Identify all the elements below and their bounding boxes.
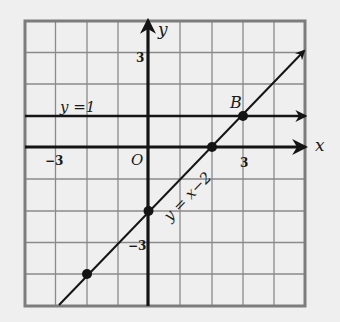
point-B	[238, 111, 248, 121]
horizontal-line-label: y =1	[59, 98, 95, 116]
x-tick-label-neg3: −3	[45, 154, 63, 168]
y-tick-label-neg3: −3	[128, 239, 146, 253]
point-B-label: B	[229, 93, 242, 112]
point-y-intercept	[144, 206, 154, 216]
origin-label: O	[131, 151, 143, 169]
y-axis-label: y	[157, 19, 168, 39]
grid-frame	[25, 21, 305, 306]
point-x-intercept	[207, 142, 217, 152]
point-lower	[82, 269, 92, 279]
slanted-line-y-equals-x-minus-2	[59, 51, 304, 305]
x-axis-label: x	[315, 135, 325, 155]
slanted-line-label: y = x−2	[159, 168, 215, 225]
coordinate-plane-figure: y x O −3 3 3 −3 B y =1 y = x−2	[0, 0, 340, 322]
x-tick-label-3: 3	[240, 156, 248, 170]
y-tick-label-3: 3	[136, 51, 144, 65]
grid	[25, 21, 305, 306]
